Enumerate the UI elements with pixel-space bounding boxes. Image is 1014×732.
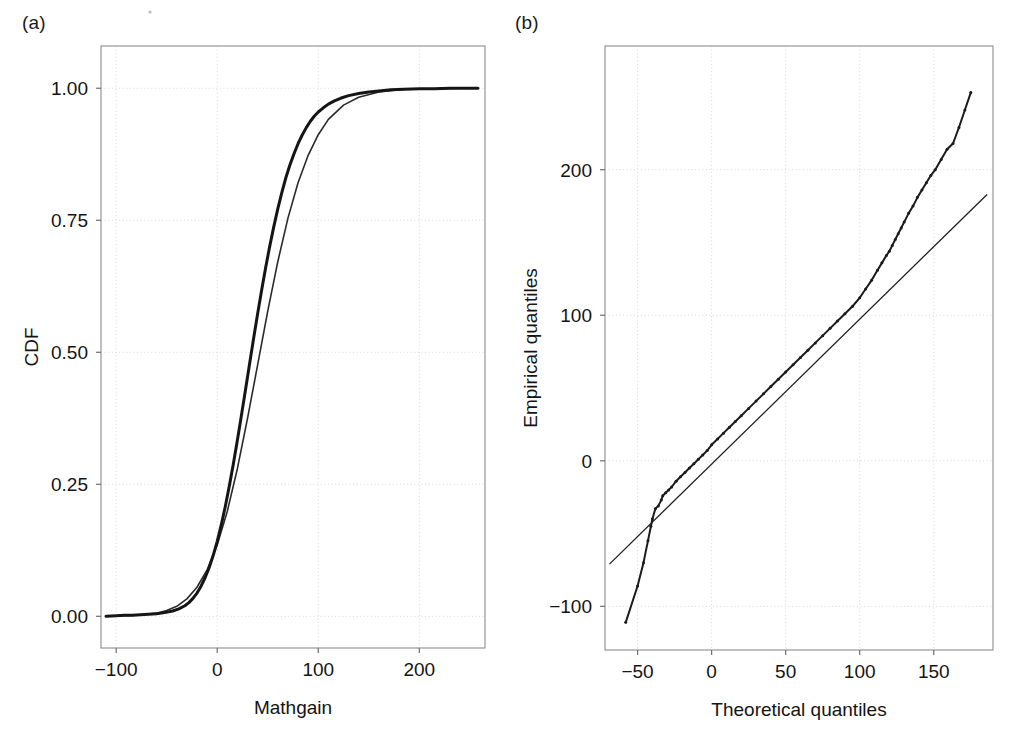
qq-data-point	[891, 244, 894, 247]
qq-data-point	[814, 341, 817, 344]
y-tick-label: 200	[560, 160, 592, 181]
plot-frame	[101, 46, 485, 648]
y-tick-label: 0	[581, 451, 592, 472]
qq-data-point	[722, 432, 725, 435]
qq-data-point	[769, 385, 772, 388]
qq-data-point	[660, 499, 663, 502]
qq-data-point	[651, 518, 654, 521]
qq-data-point	[925, 181, 928, 184]
qq-data-point	[907, 212, 910, 215]
qq-data-point	[661, 494, 664, 497]
qq-data-point	[679, 475, 682, 478]
qq-data-point	[957, 126, 960, 129]
qq-data-point	[900, 226, 903, 229]
qq-data-point	[806, 349, 809, 352]
qq-data-point	[697, 458, 700, 461]
y-tick-label: 0.00	[51, 606, 88, 627]
qq-data-point	[646, 539, 649, 542]
qq-data-point	[836, 320, 839, 323]
qq-data-point	[692, 462, 695, 465]
qq-data-point	[747, 407, 750, 410]
qq-data-point	[880, 261, 883, 264]
y-axis-title: Empirical quantiles	[520, 268, 541, 427]
x-tick-label: −50	[621, 661, 653, 682]
qq-data-point	[821, 334, 824, 337]
qq-data-point	[683, 471, 686, 474]
qq-data-point	[897, 232, 900, 235]
x-tick-label: 200	[403, 659, 435, 680]
qq-data-point	[864, 288, 867, 291]
qq-data-point	[876, 269, 879, 272]
qq-data-point	[916, 196, 919, 199]
qq-data-point	[664, 491, 667, 494]
qq-data-point	[784, 371, 787, 374]
qq-data-point	[762, 392, 765, 395]
qq-data-point	[858, 296, 861, 299]
qq-sample-path	[626, 93, 971, 623]
qq-data-point	[799, 356, 802, 359]
y-tick-label: 0.75	[51, 210, 88, 231]
figure-container: (a) −10001002000.000.250.500.751.00Mathg…	[0, 0, 1014, 732]
x-tick-label: 0	[212, 659, 223, 680]
y-tick-label: −100	[549, 596, 592, 617]
plot-frame	[605, 46, 993, 650]
qq-data-point	[675, 480, 678, 483]
x-tick-label: 100	[302, 659, 334, 680]
qq-data-point	[670, 485, 673, 488]
qq-data-point	[963, 109, 966, 112]
qq-data-point	[934, 168, 937, 171]
panel-b-tag: (b)	[515, 12, 539, 34]
qq-data-point	[706, 449, 709, 452]
y-tick-label: 0.50	[51, 342, 88, 363]
qq-data-point	[912, 205, 915, 208]
qq-data-point	[969, 91, 972, 94]
qq-data-point	[740, 414, 743, 417]
x-axis-title: Theoretical quantiles	[711, 699, 886, 720]
panel-b-plot: −50050100150−1000100200Theoretical quant…	[507, 0, 1014, 732]
qq-data-point	[829, 327, 832, 330]
qq-data-point	[649, 525, 652, 528]
x-tick-label: 0	[706, 661, 717, 682]
qq-data-point	[777, 378, 780, 381]
qq-data-point	[716, 437, 719, 440]
qq-data-point	[636, 584, 639, 587]
x-tick-label: 150	[918, 661, 950, 682]
qq-data-point	[755, 400, 758, 403]
y-tick-label: 0.25	[51, 474, 88, 495]
scan-speck	[148, 10, 151, 13]
qq-data-point	[734, 420, 737, 423]
panel-b: (b) −50050100150−1000100200Theoretical q…	[507, 0, 1014, 732]
qq-data-point	[929, 174, 932, 177]
qq-data-point	[701, 453, 704, 456]
qq-data-point	[657, 504, 660, 507]
x-tick-label: −100	[95, 659, 138, 680]
qq-data-point	[843, 312, 846, 315]
qq-data-point	[710, 443, 713, 446]
qq-data-point	[952, 142, 955, 145]
qq-data-point	[894, 238, 897, 241]
qq-data-point	[642, 561, 645, 564]
qq-data-point	[654, 507, 657, 510]
x-axis-title: Mathgain	[254, 697, 332, 718]
qq-data-point	[885, 254, 888, 257]
qq-data-point	[903, 221, 906, 224]
qq-data-point	[728, 426, 731, 429]
qq-data-point	[940, 158, 943, 161]
panel-a-plot: −10001002000.000.250.500.751.00MathgainC…	[0, 0, 507, 732]
panel-a-tag: (a)	[22, 12, 46, 34]
y-tick-label: 1.00	[51, 78, 88, 99]
x-tick-label: 100	[844, 661, 876, 682]
qq-data-point	[851, 305, 854, 308]
y-tick-label: 100	[560, 305, 592, 326]
qq-reference-line	[609, 194, 987, 564]
x-tick-label: 50	[775, 661, 796, 682]
qq-data-point	[920, 189, 923, 192]
qq-data-point	[688, 467, 691, 470]
qq-data-point	[792, 363, 795, 366]
qq-data-point	[888, 250, 891, 253]
qq-data-point	[624, 621, 627, 624]
qq-data-point	[870, 279, 873, 282]
qq-data-point	[946, 148, 949, 151]
qq-data-point	[667, 488, 670, 491]
y-axis-title: CDF	[21, 327, 42, 366]
